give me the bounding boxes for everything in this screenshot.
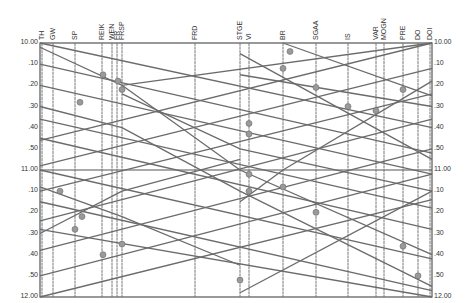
- time-tick-right: .50: [434, 144, 444, 151]
- stop-marker: [246, 120, 252, 126]
- time-tick-right: .10: [434, 186, 444, 193]
- train-graph: [0, 0, 466, 303]
- stop-marker: [57, 188, 63, 194]
- stop-marker: [400, 243, 406, 249]
- stop-marker: [72, 226, 78, 232]
- time-tick-left: 10.00: [0, 38, 38, 45]
- stop-marker: [415, 273, 421, 279]
- stop-marker: [313, 84, 319, 90]
- time-tick-left: .10: [0, 186, 38, 193]
- stop-marker: [77, 99, 83, 105]
- station-label: PRE: [399, 2, 409, 40]
- time-tick-right: 12.00: [434, 292, 452, 299]
- train-path: [40, 107, 432, 287]
- time-tick-right: .30: [434, 229, 444, 236]
- stop-marker: [246, 131, 252, 137]
- station-label: MOGN: [380, 2, 390, 40]
- time-tick-left: .20: [0, 80, 38, 87]
- train-path: [40, 43, 432, 140]
- time-tick-left: .50: [0, 271, 38, 278]
- time-tick-right: .20: [434, 80, 444, 87]
- train-path: [283, 43, 432, 96]
- stop-marker: [287, 48, 293, 54]
- time-tick-right: 11.00: [434, 165, 451, 172]
- time-tick-right: .20: [434, 207, 444, 214]
- train-path: [40, 187, 240, 265]
- stop-marker: [100, 252, 106, 258]
- stop-marker: [246, 171, 252, 177]
- train-path: [40, 43, 432, 128]
- stop-marker: [400, 87, 406, 93]
- stop-marker: [115, 78, 121, 84]
- stop-marker: [246, 188, 252, 194]
- time-tick-left: .40: [0, 123, 38, 130]
- train-path: [122, 159, 240, 191]
- time-tick-left: 12.00: [0, 292, 38, 299]
- time-tick-right: .40: [434, 123, 444, 130]
- station-label: VI: [245, 2, 255, 40]
- train-path: [40, 43, 432, 85]
- stop-marker: [373, 108, 379, 114]
- time-tick-right: .40: [434, 250, 444, 257]
- station-label: DOI: [426, 2, 436, 40]
- stop-marker: [313, 209, 319, 215]
- stop-marker: [119, 241, 125, 247]
- stop-marker: [100, 72, 106, 78]
- time-tick-right: 10.00: [434, 38, 452, 45]
- time-tick-left: .20: [0, 207, 38, 214]
- time-tick-left: .30: [0, 102, 38, 109]
- station-label: SGAA: [312, 2, 322, 40]
- time-tick-right: .10: [434, 59, 444, 66]
- stop-marker: [237, 277, 243, 283]
- time-tick-left: 11.00: [0, 165, 38, 172]
- time-tick-right: .30: [434, 102, 444, 109]
- station-label: FRSP: [118, 2, 128, 40]
- stop-marker: [280, 65, 286, 71]
- time-tick-right: .50: [434, 271, 444, 278]
- stop-marker: [119, 87, 125, 93]
- station-label: GW: [49, 2, 59, 40]
- station-label: IS: [344, 2, 354, 40]
- station-label: SP: [71, 2, 81, 40]
- time-tick-left: .30: [0, 229, 38, 236]
- stop-marker: [280, 184, 286, 190]
- time-tick-left: .40: [0, 250, 38, 257]
- graph-canvas: [0, 0, 466, 303]
- time-tick-left: .50: [0, 144, 38, 151]
- station-label: REIK: [98, 2, 108, 40]
- time-tick-left: .10: [0, 59, 38, 66]
- station-label: DO: [414, 2, 424, 40]
- train-path: [40, 68, 432, 165]
- station-label: TH: [38, 2, 48, 40]
- stop-marker: [345, 104, 351, 110]
- station-label: FRD: [191, 2, 201, 40]
- station-label: BR: [279, 2, 289, 40]
- stop-marker: [79, 214, 85, 220]
